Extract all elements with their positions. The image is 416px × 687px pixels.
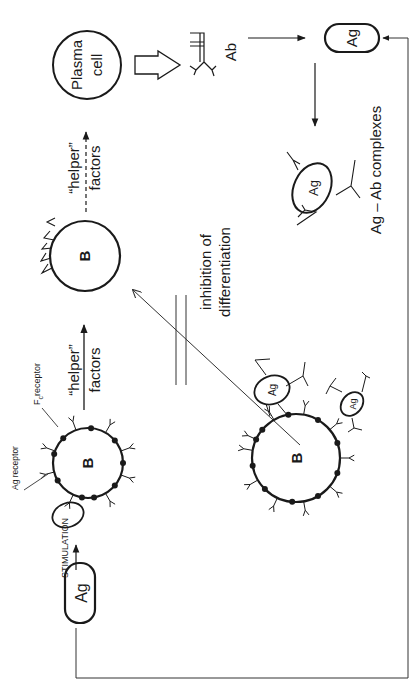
ag-receptor-icon	[40, 472, 55, 478]
antibody-icon	[190, 33, 216, 76]
ag-ab-complex: Ag	[285, 152, 360, 225]
ag-free-label: Ag	[343, 29, 360, 47]
ag-receptor-icon	[244, 480, 258, 490]
bound-ag-2: Ag	[326, 372, 370, 432]
fc-rest: receptor	[32, 363, 42, 396]
helper-factors-arrow-1: “helper” factors	[65, 325, 103, 410]
plasma-cell-line1: Plasma	[68, 39, 85, 90]
bound-ag-1-label: Ag	[267, 384, 278, 396]
immune-regulation-diagram: Ag STIMULATION B Ag receptor Fcreceptor …	[0, 0, 416, 687]
b-cell-2: B	[41, 218, 120, 291]
helper-factors-2-line2: factors	[86, 145, 103, 190]
fc-receptor-dot	[91, 494, 97, 500]
fc-receptor-dot	[112, 482, 118, 488]
fc-receptor-callout: Fcreceptor	[32, 363, 58, 427]
ag-free-node: Ag	[325, 24, 379, 52]
ag-receptor-icon	[68, 416, 76, 430]
ag-receptor-callout: Ag receptor	[10, 446, 48, 490]
fc-receptor-dot	[315, 417, 321, 423]
inhibition-line1: inhibition of	[197, 233, 214, 310]
fc-receptor-label: Fcreceptor	[32, 363, 44, 405]
ag-receptor-icon	[340, 455, 354, 461]
fc-receptor-dot	[51, 451, 57, 457]
fc-receptor-dot	[315, 493, 321, 499]
helper-factors-1-line1: “helper”	[65, 344, 82, 396]
fc-receptor-dot	[79, 494, 85, 500]
fc-receptor-dot	[289, 499, 295, 505]
fc-receptor-dot	[250, 463, 256, 469]
b-cell-1-label: B	[79, 457, 96, 468]
b-cell-1: B	[40, 416, 136, 532]
plasma-cell-line2: cell	[88, 54, 105, 77]
ag-start-label: Ag	[73, 583, 90, 603]
ag-receptor-icon	[238, 445, 253, 451]
ag-receptor-icon	[269, 498, 278, 512]
ag-receptor-icon	[303, 501, 309, 516]
fc-receptor-dot	[60, 435, 66, 441]
ag-receptor-icon	[330, 486, 343, 497]
complexes-label: Ag – Ab complexes	[367, 106, 384, 234]
complex-antibodies	[287, 152, 360, 225]
fc-receptor-dot	[334, 440, 340, 446]
helper-factors-arrow-2: “helper” factors	[65, 132, 103, 212]
ag-receptor-icon	[121, 475, 135, 483]
ag-receptor-icon	[121, 443, 135, 451]
inhibition-arrow: inhibition of differentiation	[133, 227, 300, 445]
inhibition-line2: differentiation	[216, 227, 233, 317]
plasma-cell: Plasma cell	[53, 31, 121, 99]
ag-receptor-icon	[106, 419, 116, 433]
helper-factors-1-line2: factors	[86, 347, 103, 392]
bound-antigen-blob	[49, 498, 87, 531]
fc-receptor-dot	[88, 425, 94, 431]
helper-factors-2-line1: “helper”	[65, 142, 82, 194]
ag-receptor-icon	[106, 493, 116, 507]
fc-receptor-dot	[259, 427, 265, 433]
b-cell-2-surface-receptors	[41, 218, 55, 273]
complex-ag-label: Ag	[306, 180, 321, 196]
b-cell-2-label: B	[76, 250, 93, 261]
fc-receptor-dot	[55, 478, 61, 484]
fc-receptor-dot	[253, 436, 259, 442]
antibody-label: Ab	[222, 43, 239, 61]
secretion-block-arrow	[135, 51, 180, 79]
fc-receptor-dot	[112, 438, 118, 444]
ag-receptor-label: Ag receptor	[10, 446, 20, 490]
fc-receptor-dot	[120, 460, 126, 466]
feedback-loop-arrow	[76, 38, 408, 678]
ag-receptor-icon	[41, 443, 55, 451]
bound-ag-2-label: Ag	[348, 398, 358, 409]
ag-receptor-icon	[303, 400, 309, 415]
fc-receptor-dot	[334, 470, 340, 476]
ag-receptor-icon	[330, 418, 343, 429]
b-cell-3: B Ag Ag	[238, 359, 370, 516]
fc-receptor-dot	[262, 486, 268, 492]
b-cell-3-label: B	[288, 452, 305, 463]
